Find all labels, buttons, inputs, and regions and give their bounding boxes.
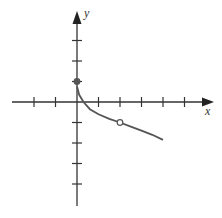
- x-axis-label: x: [205, 104, 210, 119]
- y-axis-label: y: [84, 6, 89, 21]
- function-curve: [77, 87, 163, 140]
- y-axis-arrow-icon: [73, 11, 82, 24]
- open-point: [117, 120, 123, 126]
- closed-point: [74, 79, 80, 85]
- graph: [0, 0, 222, 218]
